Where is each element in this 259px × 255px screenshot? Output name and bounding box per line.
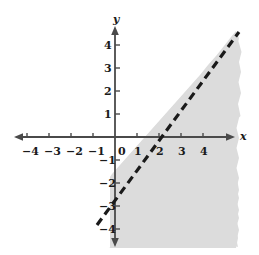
x-tick-label--2: −2 — [66, 146, 83, 157]
y-tick-label--1: −1 — [99, 155, 116, 166]
shaded-region — [109, 31, 242, 248]
x-tick-label-4: 4 — [200, 146, 208, 157]
y-tick-label--2: −2 — [99, 178, 116, 189]
y-tick-label--3: −3 — [99, 201, 116, 212]
y-tick-label-3: 3 — [104, 63, 112, 74]
x-tick-label-2: 2 — [156, 146, 164, 157]
x-tick-label-0: 0 — [118, 146, 126, 157]
y-tick-label--4: −4 — [99, 224, 116, 235]
x-tick-label-3: 3 — [178, 146, 186, 157]
coordinate-plane — [0, 0, 259, 255]
graph-figure: −4 −3 −2 −1 0 1 2 3 4 4 3 2 1 −1 −2 −3 −… — [0, 0, 259, 255]
x-tick-label--3: −3 — [44, 146, 61, 157]
y-tick-label-2: 2 — [104, 86, 112, 97]
x-axis-label: x — [240, 131, 247, 142]
y-tick-label-4: 4 — [104, 40, 112, 51]
x-tick-label-1: 1 — [134, 146, 142, 157]
y-axis-label: y — [113, 14, 119, 25]
y-tick-label-1: 1 — [104, 109, 112, 120]
x-tick-label--4: −4 — [22, 146, 39, 157]
